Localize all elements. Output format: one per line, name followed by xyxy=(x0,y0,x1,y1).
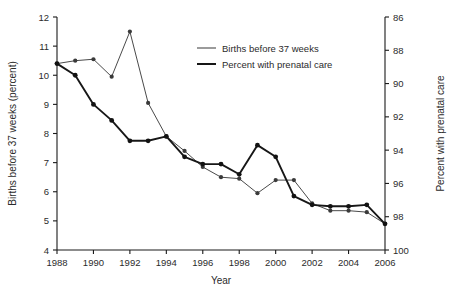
data-point xyxy=(328,209,332,213)
y2-axis-title: Percent with prenatal care xyxy=(435,75,446,192)
data-point xyxy=(55,61,60,66)
y2-tick-label: 98 xyxy=(393,211,404,222)
x-tick-label: 1988 xyxy=(46,257,67,268)
y2-tick-label: 86 xyxy=(393,12,404,23)
data-point xyxy=(346,204,351,209)
dual-axis-line-chart: 4567891011128688909294969810019881990199… xyxy=(0,0,468,299)
data-point xyxy=(274,178,278,182)
data-point xyxy=(255,143,260,148)
y-tick-label: 10 xyxy=(38,70,49,81)
x-tick-label: 1990 xyxy=(83,257,104,268)
chart-container: 4567891011128688909294969810019881990199… xyxy=(0,0,468,299)
data-point xyxy=(219,175,223,179)
y2-tick-label: 92 xyxy=(393,111,404,122)
data-point xyxy=(364,202,369,207)
data-point xyxy=(146,138,151,143)
data-point xyxy=(365,210,369,214)
y-axis-title: Births before 37 weeks (percent) xyxy=(7,61,18,206)
legend-label-1: Percent with prenatal care xyxy=(222,59,332,70)
y2-tick-label: 88 xyxy=(393,45,404,56)
data-point xyxy=(255,191,259,195)
x-tick-label: 1992 xyxy=(119,257,140,268)
y-tick-label: 4 xyxy=(44,245,49,256)
data-point xyxy=(328,204,333,209)
data-point xyxy=(200,162,205,167)
series-line-0 xyxy=(57,32,385,224)
y2-tick-label: 90 xyxy=(393,78,404,89)
data-point xyxy=(146,101,150,105)
y2-tick-label: 100 xyxy=(393,245,409,256)
data-point xyxy=(73,59,77,63)
data-point xyxy=(237,172,242,177)
y2-tick-label: 94 xyxy=(393,145,404,156)
y-tick-label: 5 xyxy=(44,215,49,226)
series-line-1 xyxy=(57,64,385,224)
data-point xyxy=(219,162,224,167)
data-point xyxy=(91,57,95,61)
data-point xyxy=(127,138,132,143)
x-tick-label: 1994 xyxy=(156,257,177,268)
data-point xyxy=(383,221,388,226)
data-point xyxy=(91,102,96,107)
data-point xyxy=(73,73,78,78)
data-point xyxy=(128,29,132,33)
y-tick-label: 6 xyxy=(44,186,49,197)
x-tick-label: 2004 xyxy=(338,257,359,268)
data-point xyxy=(273,154,278,159)
y2-tick-label: 96 xyxy=(393,178,404,189)
y-tick-label: 9 xyxy=(44,99,49,110)
data-point xyxy=(237,177,241,181)
y-tick-label: 7 xyxy=(44,157,49,168)
data-point xyxy=(310,202,315,207)
y-tick-label: 8 xyxy=(44,128,49,139)
data-point xyxy=(291,194,296,199)
x-tick-label: 1998 xyxy=(229,257,250,268)
x-axis-title: Year xyxy=(211,275,232,286)
data-point xyxy=(109,118,114,123)
data-point xyxy=(346,209,350,213)
data-point xyxy=(164,134,169,139)
x-tick-label: 2000 xyxy=(265,257,286,268)
y-tick-label: 12 xyxy=(38,12,49,23)
data-point xyxy=(182,154,187,159)
x-tick-label: 1996 xyxy=(192,257,213,268)
x-tick-label: 2002 xyxy=(302,257,323,268)
data-point xyxy=(110,75,114,79)
data-point xyxy=(292,178,296,182)
legend-label-0: Births before 37 weeks xyxy=(222,43,319,54)
data-point xyxy=(182,149,186,153)
x-tick-label: 2006 xyxy=(374,257,395,268)
y-tick-label: 11 xyxy=(39,41,49,52)
